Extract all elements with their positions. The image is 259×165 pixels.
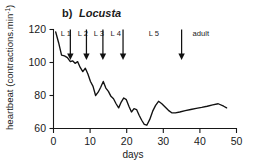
stage-arrow-head-l4	[120, 54, 126, 61]
x-tick-label-40: 40	[194, 135, 206, 147]
y-tick-label-80: 80	[34, 89, 46, 101]
heartbeat-data-line	[56, 32, 227, 125]
y-axis-ticks: 120 100 80 60	[28, 23, 53, 134]
x-axis-ticks: 0 10 20 30 40 50	[51, 129, 243, 148]
panel-letter: b)	[62, 7, 73, 19]
y-tick-label-100: 100	[28, 56, 46, 68]
stage-label-l1: L 1	[61, 29, 71, 38]
stage-arrow-head-adult	[178, 54, 184, 61]
y-tick-label-60: 60	[34, 122, 46, 134]
x-axis-title: days	[122, 149, 143, 160]
stage-label-adult: adult	[193, 29, 210, 38]
panel-species-name: Locusta	[79, 7, 121, 19]
heartbeat-line-chart: b) Locusta heartbeat (contractions.min-1…	[0, 0, 259, 165]
x-tick-label-20: 20	[121, 135, 133, 147]
x-tick-label-0: 0	[51, 135, 57, 147]
x-tick-label-30: 30	[157, 135, 169, 147]
stage-markers-group: L 1L 2L 3L 4L 5adult	[61, 29, 210, 60]
x-tick-label-10: 10	[84, 135, 96, 147]
stage-arrow-head-l3	[100, 54, 106, 61]
x-tick-label-50: 50	[231, 135, 243, 147]
y-axis-title: heartbeat (contractions.min-1)	[4, 5, 15, 130]
stage-arrow-head-l2	[83, 54, 89, 61]
y-tick-label-120: 120	[28, 23, 46, 35]
figure-panel: b) Locusta heartbeat (contractions.min-1…	[0, 0, 259, 165]
stage-label-l5: L 5	[149, 29, 159, 38]
y-axis-title-text: heartbeat (contractions.min-1)	[4, 5, 15, 130]
stage-label-l4: L 4	[111, 29, 121, 38]
